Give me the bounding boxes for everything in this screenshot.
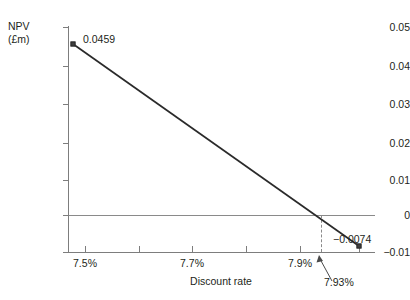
chart-overlay [0,0,410,300]
irr-annotation-label: 7.93% [324,277,354,288]
data-point-marker-first [71,42,76,47]
data-point-label-last: −0.0074 [333,234,371,245]
data-point-label-first: 0.0459 [83,34,115,45]
npv-sensitivity-chart: NPV (£m) 0.05 0.04 0.03 0.02 0.01 0 −0.0… [0,0,410,300]
npv-series-line [73,44,359,246]
irr-callout-arrow-head [317,255,324,263]
